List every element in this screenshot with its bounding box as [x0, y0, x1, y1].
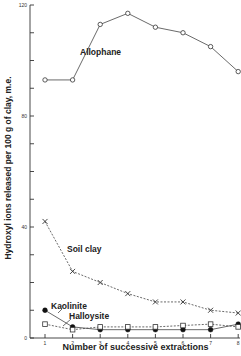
soil-clay-label: Soil clay — [67, 244, 102, 254]
allophane-label: Allophane — [80, 47, 121, 57]
filled-circle-marker-icon — [208, 327, 213, 332]
x-marker-icon — [98, 280, 103, 285]
open-square-marker-icon — [236, 325, 241, 330]
open-circle-marker-icon — [181, 31, 185, 35]
y-tick-label: 80 — [21, 113, 27, 119]
kaolinite-label: Kaolinite — [51, 301, 87, 311]
open-square-marker-icon — [208, 322, 213, 327]
axes — [30, 5, 240, 338]
open-circle-marker-icon — [70, 78, 74, 82]
y-tick-label: 0 — [24, 335, 27, 341]
x-marker-icon — [43, 219, 48, 224]
open-circle-marker-icon — [126, 11, 130, 15]
open-circle-marker-icon — [153, 25, 157, 29]
y-axis-label-text: Hydroxyl ions released per 100 g of clay… — [3, 76, 13, 259]
y-tick-label: 120 — [19, 2, 28, 8]
allophane-series — [43, 11, 241, 82]
open-square-marker-icon — [181, 323, 186, 328]
halloysite-label: Halloysite — [69, 311, 109, 321]
open-square-marker-icon — [153, 325, 158, 330]
open-square-marker-icon — [70, 327, 75, 332]
open-square-marker-icon — [43, 322, 48, 327]
x-marker-icon — [70, 269, 75, 274]
open-circle-marker-icon — [236, 69, 240, 73]
series-layer — [43, 11, 241, 332]
series-line — [45, 221, 238, 313]
open-circle-marker-icon — [208, 44, 212, 48]
x-marker-icon — [181, 299, 186, 304]
open-circle-marker-icon — [43, 78, 47, 82]
x-axis-label: Number of successive extractions — [30, 342, 241, 352]
open-square-marker-icon — [126, 325, 131, 330]
open-square-marker-icon — [98, 325, 103, 330]
y-tick-label: 40 — [21, 224, 27, 230]
filled-circle-marker-icon — [43, 308, 48, 313]
open-circle-marker-icon — [98, 22, 102, 26]
x-marker-icon — [125, 291, 130, 296]
